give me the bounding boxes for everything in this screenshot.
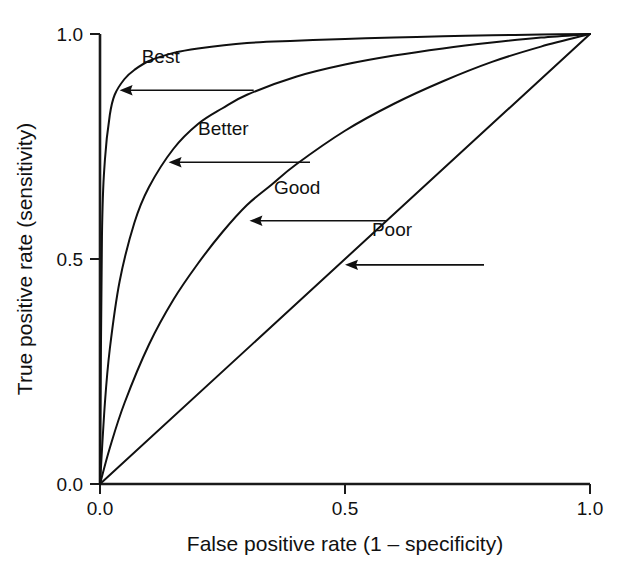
- x-tick-label-2: 0.5: [332, 498, 358, 519]
- x-tick-label-1: 0.0: [87, 498, 113, 519]
- x-axis-title: False positive rate (1 – specificity): [187, 532, 503, 555]
- annotation-label-good: Good: [274, 177, 320, 198]
- roc-plot-canvas: 1.0 0.5 0.0 0.0 0.5 1.0 BestBetterGoodPo…: [0, 0, 634, 572]
- annotation-best: Best: [120, 46, 254, 95]
- x-axis-ticks: [100, 484, 590, 494]
- x-tick-label-3: 1.0: [577, 498, 603, 519]
- curve-annotations-group: BestBetterGoodPoor: [120, 46, 484, 270]
- y-axis-title: True positive rate (sensitivity): [13, 123, 36, 395]
- annotation-better: Better: [169, 118, 310, 167]
- roc-chart-figure: 1.0 0.5 0.0 0.0 0.5 1.0 BestBetterGoodPo…: [0, 0, 634, 572]
- roc-curves-group: [100, 34, 590, 484]
- y-axis-tick-labels: 1.0 0.5 0.0: [57, 24, 83, 495]
- y-tick-label-1: 1.0: [57, 24, 83, 45]
- annotation-label-better: Better: [198, 118, 249, 139]
- roc-curve-poor: [100, 34, 590, 484]
- annotation-good: Good: [249, 177, 385, 226]
- x-axis-tick-labels: 0.0 0.5 1.0: [87, 498, 603, 519]
- annotation-label-best: Best: [142, 46, 181, 67]
- annotation-label-poor: Poor: [372, 219, 413, 240]
- y-tick-label-3: 0.0: [57, 474, 83, 495]
- y-axis-ticks: [90, 34, 100, 484]
- y-tick-label-2: 0.5: [57, 249, 83, 270]
- annotation-poor: Poor: [345, 219, 484, 270]
